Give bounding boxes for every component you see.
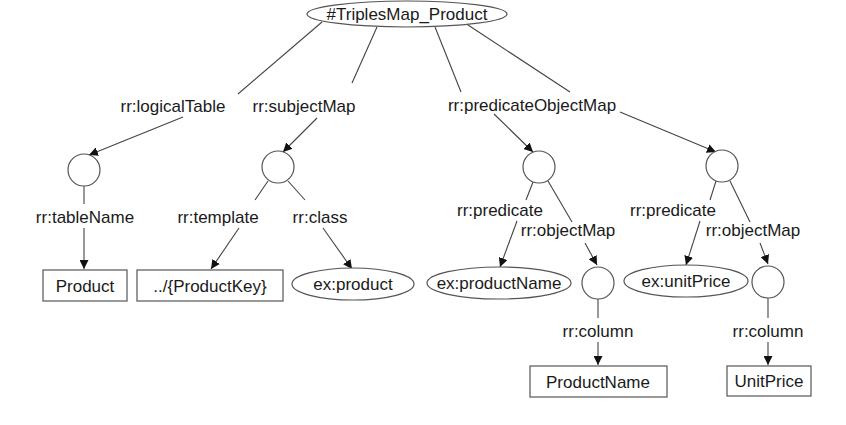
node-ex-productname-label: ex:productName [437, 274, 562, 293]
edge-template-lower [211, 228, 239, 269]
node-ex-productname[interactable]: ex:productName [427, 267, 571, 299]
node-productname-label: ProductName [546, 373, 650, 392]
edge-subjectMap-lower [283, 118, 317, 152]
edge-objectMap2-lower [760, 243, 768, 264]
edge-predicate2-upper [710, 181, 716, 200]
node-ex-product[interactable]: ex:product [292, 268, 414, 300]
blank-node-subject-map[interactable] [262, 151, 294, 183]
label-objectMap-2: rr:objectMap [706, 221, 800, 240]
edges [84, 22, 768, 365]
edge-template-upper [255, 181, 268, 200]
blank-node-predicate-object-map-1[interactable] [523, 151, 555, 183]
label-column-1: rr:column [563, 322, 634, 341]
node-column-unitprice[interactable]: UnitPrice [727, 366, 811, 396]
node-template[interactable]: ../{ProductKey} [137, 270, 283, 301]
edge-objectMap2-upper [730, 181, 750, 222]
node-column-productname[interactable]: ProductName [530, 366, 667, 397]
node-product-label: Product [56, 277, 115, 296]
node-unitprice-label: UnitPrice [735, 372, 804, 391]
edge-class-upper [288, 181, 305, 200]
edge-predicateObjectMap2-upper [465, 23, 570, 92]
node-ex-unitprice-label: ex:unitPrice [642, 272, 731, 291]
edge-objectMap1-upper [548, 181, 572, 222]
edge-labels: rr:logicalTable rr:subjectMap rr:predica… [36, 96, 804, 341]
label-column-2: rr:column [733, 322, 804, 341]
blank-node-object-map-2[interactable] [752, 266, 784, 298]
label-predicate-2: rr:predicate [630, 201, 716, 220]
mapping-diagram: rr:logicalTable rr:subjectMap rr:predica… [0, 0, 846, 425]
label-objectMap-1: rr:objectMap [521, 221, 615, 240]
label-class: rr:class [293, 208, 348, 227]
blank-node-predicate-object-map-2[interactable] [706, 150, 738, 182]
edge-objectMap1-lower [585, 243, 597, 265]
nodes: #TriplesMap_Product Product ../{ProductK… [43, 1, 811, 397]
node-triples-map[interactable]: #TriplesMap_Product [307, 1, 507, 27]
edge-predicateObjectMap2-lower [620, 112, 716, 152]
blank-node-object-map-1[interactable] [582, 267, 614, 299]
edge-class-lower [323, 228, 352, 269]
label-tableName: rr:tableName [36, 208, 134, 227]
node-ex-unitprice[interactable]: ex:unitPrice [624, 265, 748, 297]
node-ex-product-label: ex:product [313, 275, 393, 294]
node-table-name-product[interactable]: Product [43, 270, 127, 301]
label-template: rr:template [177, 208, 258, 227]
edge-predicateObjectMap1-upper [435, 27, 461, 92]
edge-predicate1-upper [526, 182, 533, 200]
edge-predicate1-lower [500, 221, 517, 267]
label-predicateObjectMap: rr:predicateObjectMap [448, 96, 616, 115]
blank-node-logical-table[interactable] [68, 154, 100, 186]
label-logicalTable: rr:logicalTable [121, 97, 226, 116]
node-template-label: ../{ProductKey} [153, 277, 267, 296]
edge-predicateObjectMap1-lower [494, 114, 533, 152]
edge-predicate2-lower [686, 221, 700, 265]
edge-logicalTable-upper [238, 22, 322, 94]
label-predicate-1: rr:predicate [457, 201, 543, 220]
edge-logicalTable-lower [89, 117, 183, 155]
edge-subjectMap-upper [352, 27, 377, 83]
node-root-label: #TriplesMap_Product [327, 5, 488, 24]
label-subjectMap: rr:subjectMap [253, 97, 356, 116]
